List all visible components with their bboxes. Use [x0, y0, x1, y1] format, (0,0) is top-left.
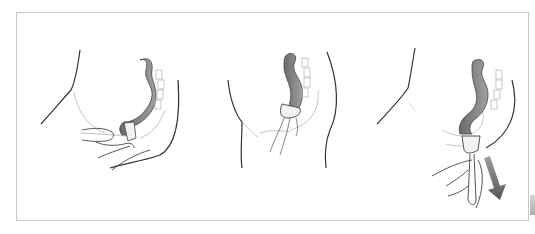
panel-insertion-illustration [0, 0, 190, 234]
spine-segments-1 [155, 70, 164, 109]
cup-stem-lines-2 [270, 118, 298, 155]
folded-cup-1 [124, 122, 136, 141]
hand-1 [82, 128, 150, 170]
shaded-crease-3 [407, 88, 416, 112]
spine-segments-3 [491, 70, 502, 109]
removal-arrow-icon [484, 156, 506, 200]
panel-cup-in-place-illustration [190, 0, 360, 234]
canal-shape-3 [459, 59, 488, 134]
panel-removal-illustration [360, 0, 535, 234]
cup-being-removed-3 [462, 136, 480, 153]
hand-3 [432, 154, 482, 208]
spine-segments-2 [302, 58, 310, 97]
canal-shape-2 [284, 53, 303, 110]
